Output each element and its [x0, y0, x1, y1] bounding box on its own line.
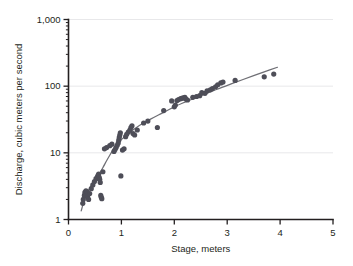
x-tick-label-2: 2: [172, 227, 177, 238]
data-point: [129, 123, 134, 128]
data-point: [98, 180, 103, 185]
data-point: [87, 191, 92, 196]
data-point: [169, 98, 174, 103]
data-point: [233, 78, 238, 83]
gridlines-group: [69, 20, 334, 153]
ticks-group: [64, 20, 334, 225]
trend-line: [81, 67, 277, 211]
data-point: [118, 130, 123, 135]
data-point: [99, 196, 104, 201]
trend-line-group: [81, 67, 277, 211]
data-point: [118, 173, 123, 178]
data-point: [145, 118, 150, 123]
y-tick-label-100: 100: [45, 80, 61, 91]
data-point: [135, 127, 140, 132]
x-tick-label-5: 5: [330, 227, 335, 238]
x-tick-label-1: 1: [119, 227, 124, 238]
data-point: [109, 142, 114, 147]
stage-discharge-scatter-plot: 1101001,000012345Stage, metersDischarge,…: [0, 0, 353, 266]
data-point: [173, 103, 178, 108]
y-tick-label-1: 1: [55, 214, 60, 225]
data-points-group: [80, 71, 276, 205]
data-point: [121, 146, 126, 151]
data-point: [132, 132, 137, 137]
data-point: [155, 125, 160, 130]
data-point: [271, 71, 276, 76]
axes-group: [69, 20, 334, 220]
data-point: [161, 108, 166, 113]
x-tick-label-3: 3: [225, 227, 230, 238]
data-point: [86, 197, 91, 202]
data-point: [262, 74, 267, 79]
data-point: [100, 169, 105, 174]
y-axis-title: Discharge, cubic meters per second: [13, 44, 24, 196]
chart-container: 1101001,000012345Stage, metersDischarge,…: [0, 0, 353, 266]
x-tick-label-0: 0: [66, 227, 71, 238]
data-point: [185, 97, 190, 102]
x-axis-title: Stage, meters: [171, 243, 230, 254]
y-tick-label-10: 10: [50, 147, 61, 158]
x-tick-label-4: 4: [277, 227, 282, 238]
y-tick-label-1000: 1,000: [37, 14, 61, 25]
data-point: [220, 80, 225, 85]
